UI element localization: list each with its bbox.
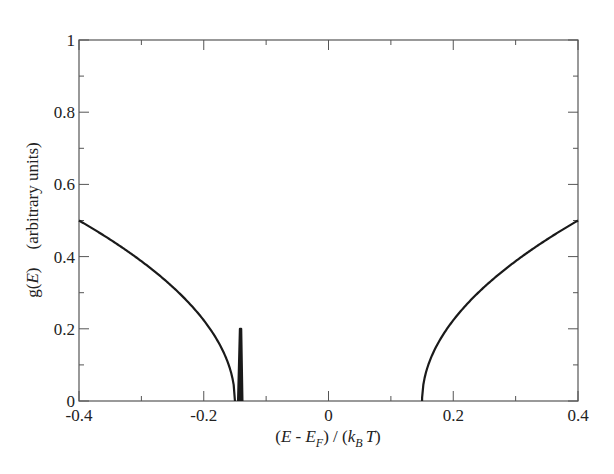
axis-ticks — [79, 40, 578, 401]
data-series — [79, 221, 578, 402]
series-line — [79, 221, 235, 402]
series-line — [238, 329, 242, 401]
y-tick-label: 0.6 — [54, 175, 75, 194]
x-tick-label: 0.2 — [443, 406, 464, 425]
x-tick-label: -0.2 — [190, 406, 217, 425]
x-tick-label: 0 — [324, 406, 333, 425]
x-tick-labels: -0.4-0.200.20.4 — [66, 406, 590, 425]
y-tick-labels: 00.20.40.60.81 — [54, 31, 76, 411]
plot-frame — [79, 40, 578, 401]
y-tick-label: 0.8 — [54, 103, 75, 122]
x-tick-label: 0.4 — [567, 406, 589, 425]
y-tick-label: 0.2 — [54, 320, 75, 339]
y-tick-label: 0.4 — [54, 248, 76, 267]
y-axis-label: g(E)(arbitrary units) — [23, 142, 42, 297]
dos-chart: -0.4-0.200.20.4 00.20.40.60.81 (E - EF) … — [0, 0, 614, 474]
x-axis-label: (E - EF) / (kBT) — [275, 427, 381, 450]
y-tick-label: 0 — [67, 392, 76, 411]
series-line — [422, 221, 578, 402]
y-tick-label: 1 — [67, 31, 76, 50]
